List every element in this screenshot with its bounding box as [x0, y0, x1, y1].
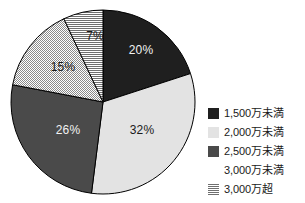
legend-swatch-icon-3 — [208, 146, 219, 157]
legend-swatch-icon-2 — [208, 127, 219, 138]
legend-label-2: 2,000万未満 — [224, 127, 284, 138]
legend-swatch-icon-4 — [208, 165, 219, 176]
legend-item-1[interactable]: 1,500万未満 — [208, 104, 303, 122]
pie-slice[interactable] — [11, 85, 103, 194]
legend-item-5[interactable]: 3,000万超 — [208, 180, 303, 198]
legend-label-1: 1,500万未満 — [224, 108, 284, 119]
pie-chart-svg — [0, 0, 205, 203]
legend-label-5: 3,000万超 — [224, 184, 273, 195]
legend-label-4: 3,000万未満 — [224, 165, 284, 176]
legend-item-2[interactable]: 2,000万未満 — [208, 123, 303, 141]
legend-item-4[interactable]: 3,000万未満 — [208, 161, 303, 179]
pie-chart: 20% 32% 26% 15% 7% — [0, 0, 205, 203]
chart-screenshot: 20% 32% 26% 15% 7% 1,500万未満 2,000万未満 2,5… — [0, 0, 305, 203]
legend: 1,500万未満 2,000万未満 2,500万未満 3,000万未満 3,00… — [208, 104, 303, 199]
legend-label-3: 2,500万未満 — [224, 146, 284, 157]
legend-swatch-icon-1 — [208, 108, 219, 119]
legend-item-3[interactable]: 2,500万未満 — [208, 142, 303, 160]
legend-swatch-icon-5 — [208, 184, 219, 195]
